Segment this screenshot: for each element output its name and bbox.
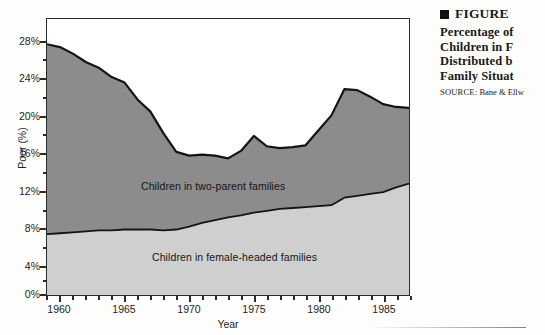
x-tick-minor bbox=[280, 296, 282, 300]
x-tick-major bbox=[254, 296, 256, 302]
x-tick-label: 1985 bbox=[372, 303, 395, 315]
y-tick-label: 28% bbox=[19, 35, 40, 47]
x-tick-minor bbox=[215, 296, 217, 300]
x-tick-minor bbox=[306, 296, 308, 300]
y-tick-label: 24% bbox=[19, 72, 40, 84]
x-tick-major bbox=[189, 296, 191, 302]
series-label-two-parent: Children in two-parent families bbox=[141, 180, 285, 192]
chart-panel: 28% 24% 20% 16% 12% 8% 4% 0% Poor (%) Ch… bbox=[0, 0, 430, 335]
x-tick-minor bbox=[98, 296, 100, 300]
y-axis-title: Poor (%) bbox=[16, 108, 28, 188]
y-tick-label: 0% bbox=[25, 288, 40, 300]
source-text: Bane & Ellw bbox=[479, 87, 523, 97]
caption-line: Family Situat bbox=[440, 69, 545, 84]
x-tick-major bbox=[59, 296, 61, 302]
y-tick-label: 8% bbox=[25, 222, 40, 234]
x-tick-minor bbox=[358, 296, 360, 300]
x-tick-minor bbox=[150, 296, 152, 300]
square-bullet-icon bbox=[440, 10, 449, 19]
caption-line: Children in F bbox=[440, 40, 545, 55]
caption-line: Percentage of bbox=[440, 25, 545, 40]
figure-caption-heading: FIGURE bbox=[440, 6, 545, 22]
x-tick-label: 1970 bbox=[177, 303, 200, 315]
x-tick-label: 1965 bbox=[112, 303, 135, 315]
figure-caption: FIGURE Percentage of Children in F Distr… bbox=[440, 6, 545, 126]
x-tick-minor bbox=[241, 296, 243, 300]
x-tick-minor bbox=[410, 296, 412, 300]
x-tick-minor bbox=[228, 296, 230, 300]
x-tick-minor bbox=[72, 296, 74, 300]
x-tick-minor bbox=[163, 296, 165, 300]
x-tick-minor bbox=[371, 296, 373, 300]
x-tick-major bbox=[384, 296, 386, 302]
x-tick-label: 1960 bbox=[47, 303, 70, 315]
x-tick-minor bbox=[293, 296, 295, 300]
x-tick-minor bbox=[345, 296, 347, 300]
x-tick-label: 1975 bbox=[242, 303, 265, 315]
caption-line: Distributed b bbox=[440, 54, 545, 69]
x-tick-major bbox=[319, 296, 321, 302]
x-tick-minor bbox=[111, 296, 113, 300]
source-tag: SOURCE: bbox=[440, 87, 477, 97]
series-label-female-headed: Children in female-headed families bbox=[152, 251, 317, 263]
x-tick-major bbox=[124, 296, 126, 302]
figure-label: FIGURE bbox=[455, 6, 509, 22]
x-axis-title: Year bbox=[46, 318, 410, 330]
x-tick-label: 1980 bbox=[307, 303, 330, 315]
x-tick-minor bbox=[85, 296, 87, 300]
y-tick-label: 4% bbox=[25, 260, 40, 272]
x-tick-minor bbox=[397, 296, 399, 300]
x-tick-minor bbox=[176, 296, 178, 300]
x-tick-minor bbox=[46, 296, 48, 300]
scan-artifact-rule bbox=[366, 327, 526, 328]
x-tick-minor bbox=[332, 296, 334, 300]
x-tick-minor bbox=[202, 296, 204, 300]
x-tick-minor bbox=[267, 296, 269, 300]
x-tick-minor bbox=[137, 296, 139, 300]
caption-source: SOURCE: Bane & Ellw bbox=[440, 87, 545, 98]
